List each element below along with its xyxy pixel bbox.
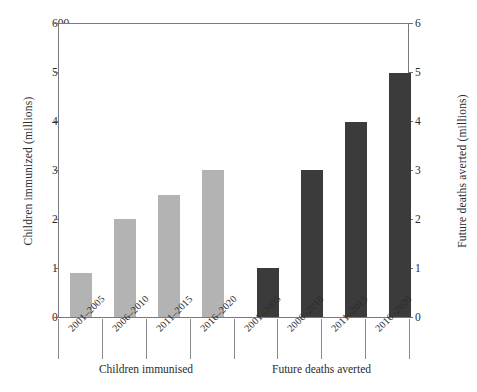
- right-tickmark: [409, 23, 413, 24]
- category-separator: [234, 319, 235, 359]
- category-separator: [409, 319, 410, 359]
- left-axis-title: Children immunized (millions): [22, 24, 34, 318]
- category-separator: [277, 319, 278, 359]
- bar-children-2016-2020: [202, 170, 224, 317]
- category-separator: [365, 319, 366, 359]
- bar-deaths-2016-2020: [389, 73, 411, 317]
- plot-area: [58, 23, 409, 318]
- right-tickmark: [409, 317, 413, 318]
- group-label-children-immunised: Children immunised: [58, 363, 234, 375]
- bar-chart: Children immunized (millions) Future dea…: [0, 0, 477, 392]
- group-label-future-deaths-averted: Future deaths averted: [234, 363, 409, 375]
- category-separator: [102, 319, 103, 359]
- category-separator: [321, 319, 322, 359]
- category-separator: [58, 319, 59, 359]
- bar-deaths-2011-2015: [345, 122, 367, 317]
- category-separator: [146, 319, 147, 359]
- bar-children-2011-2015: [158, 195, 180, 317]
- category-separator: [190, 319, 191, 359]
- right-axis-title: Future deaths averted (millions): [456, 24, 468, 318]
